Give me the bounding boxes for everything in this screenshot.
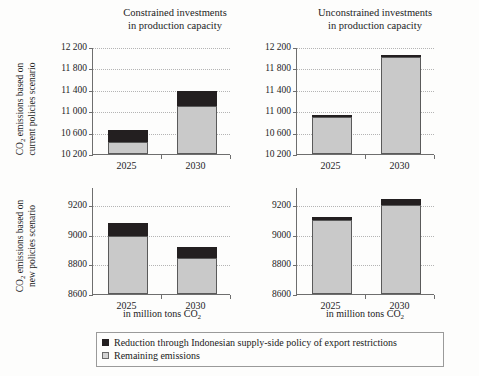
bar-segment-remaining[interactable] xyxy=(312,220,352,294)
x-tick xyxy=(365,295,366,299)
gridline xyxy=(93,48,230,49)
y-tick-label: 8600 xyxy=(272,290,291,300)
y-tick-label: 10 200 xyxy=(265,150,291,160)
x-tick xyxy=(230,155,231,159)
x-tick xyxy=(161,155,162,159)
x-tick xyxy=(365,155,366,159)
y-tick xyxy=(293,295,297,296)
chart-panel-top-left: 2025203010 20010 60011 00011 40011 80012… xyxy=(92,48,230,179)
y-tick-label: 11 000 xyxy=(61,107,87,117)
y-tick-label: 9200 xyxy=(272,201,291,211)
y-tick-label: 12 200 xyxy=(265,43,291,53)
bar-segment-reduction[interactable] xyxy=(312,217,352,221)
x-tick xyxy=(434,155,435,159)
y-tick xyxy=(89,69,93,70)
y-tick-label: 11 800 xyxy=(61,64,87,74)
y-tick xyxy=(89,295,93,296)
x-tick xyxy=(230,295,231,299)
bar-2030[interactable] xyxy=(177,247,217,294)
x-axis-title-right: in million tons CO2 xyxy=(275,308,455,319)
y-tick xyxy=(293,155,297,156)
y-tick xyxy=(293,48,297,49)
gridline xyxy=(297,48,434,49)
plot-area-bottom-right: 8600880090009200 xyxy=(296,188,434,295)
legend-label-remaining: Remaining emissions xyxy=(114,349,200,362)
x-tick-label-2025: 2025 xyxy=(104,160,150,171)
bar-segment-reduction[interactable] xyxy=(108,130,148,142)
bar-2030[interactable] xyxy=(381,55,421,155)
y-tick-label: 11 800 xyxy=(265,64,291,74)
gridline xyxy=(93,206,230,207)
panel-title-right: Unconstrained investments in production … xyxy=(300,7,450,32)
y-tick xyxy=(293,265,297,266)
bar-segment-remaining[interactable] xyxy=(177,258,217,294)
y-tick-label: 12 200 xyxy=(61,43,87,53)
y-tick xyxy=(89,236,93,237)
x-tick xyxy=(434,295,435,299)
legend-swatch-remaining-icon xyxy=(102,352,109,359)
bar-segment-reduction[interactable] xyxy=(381,199,421,205)
y-tick-label: 11 400 xyxy=(61,86,87,96)
x-tick xyxy=(161,295,162,299)
y-tick-label: 11 000 xyxy=(265,107,291,117)
y-tick-label: 10 200 xyxy=(61,150,87,160)
bar-2025[interactable] xyxy=(312,217,352,294)
y-tick xyxy=(89,134,93,135)
y-tick xyxy=(89,48,93,49)
bar-segment-reduction[interactable] xyxy=(381,55,421,57)
y-tick xyxy=(293,112,297,113)
bar-segment-remaining[interactable] xyxy=(381,205,421,294)
legend-swatch-reduction-icon xyxy=(102,339,109,346)
row-label-new-policies: CO2 emissions based on new policies scen… xyxy=(3,186,29,306)
gridline xyxy=(93,69,230,70)
y-tick xyxy=(89,155,93,156)
figure-root: Constrained investments in production ca… xyxy=(0,0,479,376)
plot-area-top-right: 10 20010 60011 00011 40011 80012 200 xyxy=(296,48,434,155)
y-tick xyxy=(293,134,297,135)
x-tick-label-2030: 2030 xyxy=(377,160,423,171)
chart-panel-bottom-right: 202520308600880090009200 xyxy=(296,188,434,319)
x-axis-title-left: in million tons CO2 xyxy=(72,308,252,319)
y-tick xyxy=(89,112,93,113)
chart-panel-top-right: 2025203010 20010 60011 00011 40011 80012… xyxy=(296,48,434,179)
x-tick-label-2025: 2025 xyxy=(308,160,354,171)
y-tick-label: 8800 xyxy=(272,260,291,270)
y-tick-label: 9200 xyxy=(68,201,87,211)
y-tick-label: 9000 xyxy=(272,231,291,241)
panel-title-left: Constrained investments in production ca… xyxy=(100,7,250,32)
legend-item-reduction: Reduction through Indonesian supply-side… xyxy=(102,336,438,349)
bar-segment-remaining[interactable] xyxy=(312,117,352,154)
legend-label-reduction: Reduction through Indonesian supply-side… xyxy=(114,336,397,349)
y-tick-label: 10 600 xyxy=(265,129,291,139)
bar-segment-reduction[interactable] xyxy=(177,91,217,106)
bar-segment-remaining[interactable] xyxy=(381,57,421,154)
y-tick-label: 8600 xyxy=(68,290,87,300)
row-label-top-text: CO2 emissions based on current policies … xyxy=(15,63,38,156)
bar-segment-reduction[interactable] xyxy=(177,247,217,258)
plot-area-top-left: 10 20010 60011 00011 40011 80012 200 xyxy=(92,48,230,155)
bar-segment-remaining[interactable] xyxy=(108,236,148,294)
bar-segment-remaining[interactable] xyxy=(177,106,217,154)
bar-2025[interactable] xyxy=(108,130,148,154)
chart-panel-bottom-left: 202520308600880090009200 xyxy=(92,188,230,319)
y-tick xyxy=(293,69,297,70)
bar-segment-reduction[interactable] xyxy=(312,115,352,117)
row-label-current-policies: CO2 emissions based on current policies … xyxy=(3,44,29,174)
legend-item-remaining: Remaining emissions xyxy=(102,349,438,362)
y-tick xyxy=(293,206,297,207)
bar-2030[interactable] xyxy=(381,199,421,294)
y-tick xyxy=(293,91,297,92)
bar-segment-remaining[interactable] xyxy=(108,142,148,154)
bar-2025[interactable] xyxy=(312,115,352,154)
bar-2030[interactable] xyxy=(177,91,217,154)
y-tick xyxy=(293,236,297,237)
y-tick-label: 11 400 xyxy=(265,86,291,96)
bar-2025[interactable] xyxy=(108,223,148,294)
bar-segment-reduction[interactable] xyxy=(108,223,148,236)
x-tick-label-2030: 2030 xyxy=(173,160,219,171)
legend: Reduction through Indonesian supply-side… xyxy=(96,332,444,367)
row-label-bottom-text: CO2 emissions based on new policies scen… xyxy=(15,200,38,292)
plot-area-bottom-left: 8600880090009200 xyxy=(92,188,230,295)
y-tick-label: 10 600 xyxy=(61,129,87,139)
y-tick xyxy=(89,265,93,266)
